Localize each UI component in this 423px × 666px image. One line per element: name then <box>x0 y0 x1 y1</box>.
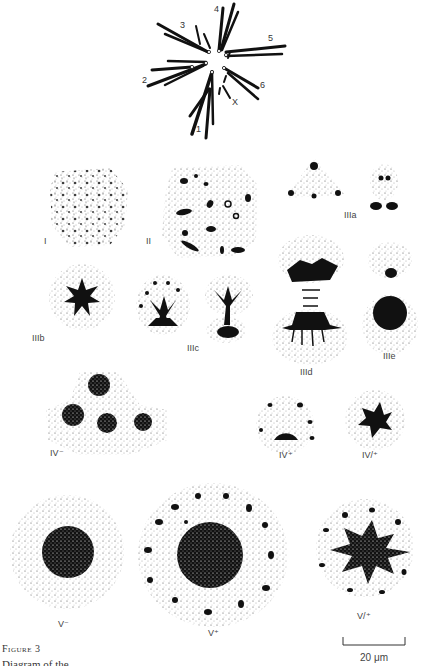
figure-caption-title: Figure 3 <box>2 643 40 654</box>
scale-bar-line <box>0 0 423 666</box>
figure-caption-text: Diagram of the ... <box>2 658 80 666</box>
scale-bar-label: 20 μm <box>360 652 388 663</box>
